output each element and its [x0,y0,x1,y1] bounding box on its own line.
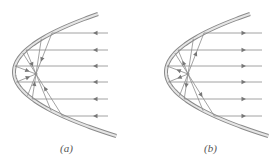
arrow-right-icon [242,114,247,118]
arrow-from-focus-icon [198,92,202,97]
arrow-from-focus-icon [184,83,188,88]
parabolic-mirror-diagram [0,0,273,165]
arrow-right-icon [242,97,247,101]
arrow-left-icon [93,97,98,101]
arrow-left-icon [93,48,98,52]
arrow-toward-focus-icon [44,87,48,92]
arrow-left-icon [93,80,98,84]
arrow-right-icon [242,48,247,52]
arrow-right-icon [242,64,247,68]
arrow-left-icon [93,64,98,68]
panel-a [14,14,116,136]
arrow-right-icon [242,31,247,35]
panel-b [166,14,268,136]
panel-label-a: (a) [60,142,73,154]
arrow-right-icon [242,80,247,84]
panel-label-b: (b) [204,142,217,154]
arrow-left-icon [93,114,98,118]
mirror-surface [14,14,116,136]
arrow-left-icon [93,31,98,35]
mirror-surface [166,14,268,136]
